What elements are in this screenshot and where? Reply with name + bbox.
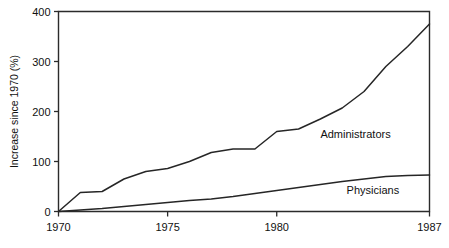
y-axis-title-text: Increase since 1970 (%) [8,55,20,168]
series-label-administrators: Administrators [320,128,391,140]
y-tick-label: 200 [32,106,50,118]
x-axis-ticks: 1970197519801987 [46,212,441,233]
line-chart: 0100200300400 1970197519801987 Administr… [0,0,449,248]
y-tick-label: 400 [32,6,50,18]
plot-border [59,12,430,212]
x-tick-label: 1970 [46,221,70,233]
chart-container: 0100200300400 1970197519801987 Administr… [0,0,449,248]
y-tick-label: 300 [32,56,50,68]
y-tick-label: 0 [44,206,50,218]
x-tick-label: 1987 [417,221,441,233]
series-label-physicians: Physicians [347,184,400,196]
plot-frame [59,12,430,212]
series-annotations: AdministratorsPhysicians [320,128,399,196]
y-tick-label: 100 [32,156,50,168]
x-tick-label: 1980 [264,221,288,233]
y-axis-title: Increase since 1970 (%) [8,55,20,168]
y-axis-ticks: 0100200300400 [32,6,58,218]
x-tick-label: 1975 [155,221,179,233]
